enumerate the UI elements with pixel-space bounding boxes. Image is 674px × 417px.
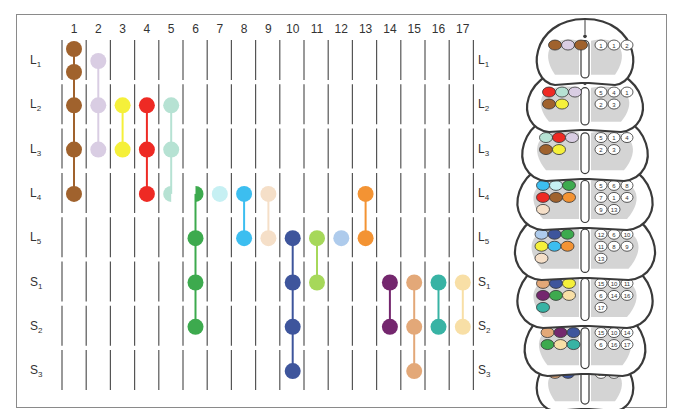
nucleus-left: [548, 241, 561, 251]
nucleus-left: [562, 40, 575, 50]
column-label-2: 2: [95, 22, 102, 36]
nucleus-left: [537, 204, 550, 214]
nucleus-left: [535, 241, 548, 251]
muscle-group-14: [382, 275, 398, 335]
muscle-dot: [188, 230, 204, 246]
column-label-14: 14: [383, 22, 396, 36]
nucleus-left: [561, 229, 574, 239]
column-label-17: 17: [456, 22, 469, 36]
muscle-dot: [163, 142, 179, 158]
left-row-label-L4: L4: [30, 186, 41, 202]
muscle-dot-half: [196, 186, 204, 202]
muscle-dot: [455, 275, 471, 291]
muscle-dot: [406, 319, 422, 335]
muscle-dot: [406, 275, 422, 291]
column-label-16: 16: [432, 22, 445, 36]
nucleus-left: [535, 253, 548, 263]
muscle-group-6: [188, 186, 204, 335]
muscle-dot: [285, 319, 301, 335]
column-label-8: 8: [241, 22, 248, 36]
muscle-dot: [188, 319, 204, 335]
nucleus-left: [554, 340, 567, 350]
right-row-label-L2: L2: [478, 97, 489, 113]
muscle-dot: [309, 275, 325, 291]
muscle-dot: [66, 41, 82, 57]
nucleus-left: [567, 340, 580, 350]
nucleus-number: 17: [598, 305, 605, 311]
column-label-12: 12: [335, 22, 348, 36]
left-row-label-L1: L1: [30, 53, 41, 69]
nucleus-left: [543, 99, 556, 109]
nucleus-number: 12: [598, 232, 605, 238]
muscle-group-9: [260, 186, 276, 246]
muscle-dot: [66, 186, 82, 202]
column-label-5: 5: [168, 22, 175, 36]
muscle-dot: [309, 230, 325, 246]
muscle-group-8: [236, 186, 252, 246]
column-label-10: 10: [286, 22, 299, 36]
right-row-label-L5: L5: [478, 230, 489, 246]
right-row-label-L3: L3: [478, 142, 489, 158]
muscle-group-3: [115, 97, 131, 157]
muscle-dot: [382, 319, 398, 335]
muscle-dot: [163, 97, 179, 113]
nucleus-number: 15: [598, 330, 605, 336]
column-label-9: 9: [265, 22, 272, 36]
left-row-label-S2: S2: [30, 319, 42, 335]
nucleus-left: [541, 340, 554, 350]
right-row-label-L4: L4: [478, 186, 489, 202]
muscle-group-17: [455, 275, 471, 335]
column-label-13: 13: [359, 22, 372, 36]
nucleus-number: 11: [624, 281, 631, 287]
nucleus-number: 10: [624, 232, 631, 238]
muscle-dot: [139, 97, 155, 113]
column-label-3: 3: [119, 22, 126, 36]
nucleus-left: [563, 180, 576, 190]
nucleus-left: [540, 133, 553, 143]
column-label-11: 11: [311, 22, 323, 36]
nucleus-left: [575, 40, 588, 50]
muscle-dot: [358, 186, 374, 202]
muscle-group-12: [333, 230, 349, 246]
nucleus-left: [556, 87, 569, 97]
nucleus-number: 13: [611, 207, 618, 213]
muscle-dot: [285, 363, 301, 379]
column-label-4: 4: [144, 22, 151, 36]
muscle-group-4: [139, 97, 155, 202]
muscle-dot: [139, 142, 155, 158]
nucleus-left: [548, 229, 561, 239]
nucleus-number: 16: [624, 293, 631, 299]
muscle-dot: [66, 97, 82, 113]
muscle-dot: [66, 142, 82, 158]
muscle-group-2: [90, 53, 106, 158]
column-label-1: 1: [71, 22, 78, 36]
column-label-6: 6: [192, 22, 199, 36]
nucleus-left: [563, 192, 576, 202]
nucleus-left: [563, 290, 576, 300]
column-label-7: 7: [216, 22, 223, 36]
nucleus-number: 14: [624, 330, 631, 336]
nucleus-number: 11: [598, 244, 605, 250]
muscle-dot: [90, 53, 106, 69]
nucleus-left: [550, 192, 563, 202]
muscle-group-1: [66, 41, 82, 202]
muscle-dot: [115, 142, 131, 158]
muscle-group-15: [406, 275, 422, 380]
right-row-label-S2: S2: [478, 319, 490, 335]
muscle-dot: [260, 230, 276, 246]
muscle-dot: [260, 186, 276, 202]
muscle-group-13: [358, 186, 374, 246]
nucleus-left: [549, 40, 562, 50]
left-row-label-L5: L5: [30, 230, 41, 246]
muscle-dot: [333, 230, 349, 246]
column-label-15: 15: [408, 22, 421, 36]
muscle-dot: [236, 230, 252, 246]
nucleus-left: [569, 87, 582, 97]
muscle-dot: [139, 186, 155, 202]
nucleus-left: [537, 290, 550, 300]
nucleus-left: [550, 180, 563, 190]
nucleus-left: [556, 99, 569, 109]
muscle-dot: [285, 230, 301, 246]
segment-grid: [0, 0, 500, 417]
muscle-dot: [358, 230, 374, 246]
